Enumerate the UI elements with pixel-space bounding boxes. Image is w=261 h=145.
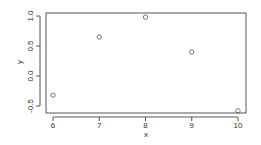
y-tick-label: 1.0 (26, 10, 35, 22)
y-axis-label: y (15, 60, 24, 64)
x-tick-label: 6 (51, 121, 56, 130)
y-tick-label: 0.5 (26, 40, 35, 52)
data-point (190, 50, 194, 54)
x-axis: 678910 (51, 117, 243, 130)
y-tick-label: -0.5 (26, 99, 35, 113)
data-points (51, 15, 240, 113)
data-point (236, 109, 240, 113)
data-point (51, 93, 55, 97)
x-tick-label: 8 (143, 121, 148, 130)
x-tick-label: 9 (190, 121, 195, 130)
y-axis: -0.50.00.51.0 (26, 10, 40, 113)
x-axis-label: x (144, 130, 148, 139)
y-tick-label: 0.0 (26, 70, 35, 82)
plot-frame (46, 13, 246, 113)
data-point (97, 35, 101, 39)
data-point (143, 15, 147, 19)
x-tick-label: 7 (97, 121, 102, 130)
scatter-plot: -0.50.00.51.0 678910 x y (0, 0, 261, 145)
x-tick-label: 10 (234, 121, 243, 130)
